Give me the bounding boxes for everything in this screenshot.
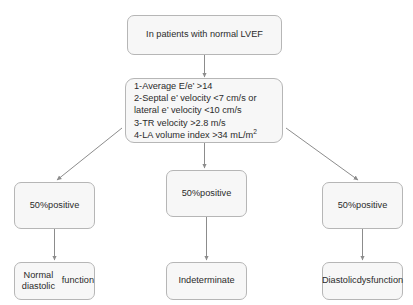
edge-criteria-to-mid-left [57,128,122,180]
node-normal-lvef-label: In patients with normal LVEF [146,29,263,40]
criteria-line-1: 1-Average E/e’ >14 [134,80,282,92]
criteria-line-5-text: 4-LA volume index >34 mL/m [134,130,253,140]
node-mid-right-line1: 50% [338,200,356,211]
node-mid-center-line2: positive [200,188,231,199]
criteria-line-2: 2-Septal e’ velocity <7 cm/s or [134,92,282,104]
node-outcome-dysfunction-line1: Diastolic [322,275,357,286]
node-mid-left-line2: positive [48,200,79,211]
node-mid-left-line1: 50% [30,200,48,211]
node-normal-lvef: In patients with normal LVEF [127,15,282,55]
criteria-line-5: 4-LA volume index >34 mL/m2 [134,129,282,141]
node-outcome-indeterminate-line1: Indeterminate [178,275,234,286]
node-outcome-normal: Normal diastolic function [14,262,95,300]
node-criteria: 1-Average E/e’ >14 2-Septal e’ velocity … [125,78,283,143]
node-mid-center: 50% positive [166,170,247,217]
node-outcome-dysfunction-line2: dysfunction [357,275,403,286]
node-outcome-indeterminate: Indeterminate [166,262,247,300]
node-mid-center-line1: 50% [182,188,200,199]
criteria-list: 1-Average E/e’ >14 2-Septal e’ velocity … [134,80,282,141]
node-outcome-dysfunction: Diastolic dysfunction [322,262,403,300]
edge-criteria-to-mid-right [286,128,358,180]
criteria-line-4: 3-TR velocity >2.8 m/s [134,117,282,129]
node-outcome-normal-line1: Normal diastolic [15,270,62,292]
node-outcome-normal-line2: function [62,275,94,286]
criteria-line-3: lateral e’ velocity <10 cm/s [134,104,282,116]
node-mid-left: 50% positive [14,182,95,229]
node-mid-right: 50% positive [322,182,403,229]
flowchart-canvas: In patients with normal LVEF 1-Average E… [0,0,413,305]
node-mid-right-line2: positive [356,200,387,211]
criteria-line-5-superscript: 2 [253,128,257,135]
